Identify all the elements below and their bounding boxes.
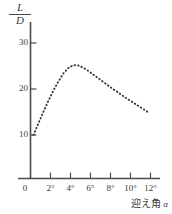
x-axis-title-text: 迎え角: [131, 198, 161, 209]
x-axis-tick-label: 6°: [81, 183, 101, 193]
plot-area: [0, 0, 172, 214]
x-axis-tick-label: 10°: [121, 183, 141, 193]
x-axis-tick-label: 8°: [101, 183, 121, 193]
data-curve-path: [34, 65, 149, 135]
y-axis-tick-label: 10: [12, 129, 28, 139]
x-axis-tick-label: 2°: [41, 183, 61, 193]
y-axis-tick-label: 30: [12, 37, 28, 47]
data-curve: [34, 65, 149, 135]
x-axis-title-symbol: α: [163, 199, 168, 209]
y-axis-tick-label: 20: [12, 83, 28, 93]
axes: [18, 22, 160, 179]
chart-figure: L D 0 102030 2°4°6°8°10°12° 迎え角 α: [0, 0, 172, 214]
origin-label: 0: [20, 183, 30, 193]
x-axis-tick-label: 12°: [141, 183, 161, 193]
y-axis-tick-marks: [31, 43, 37, 135]
x-axis-title: 迎え角 α: [131, 195, 168, 210]
x-axis-tick-label: 4°: [61, 183, 81, 193]
x-axis-tick-marks: [51, 173, 151, 179]
